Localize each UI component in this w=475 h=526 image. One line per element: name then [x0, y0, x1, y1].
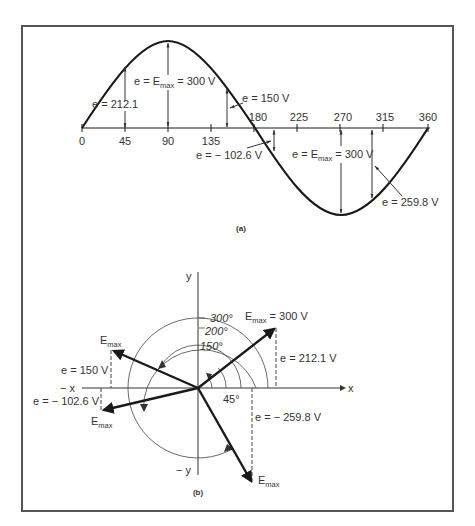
axis-label-neg-x: − x: [60, 382, 75, 394]
panel-b-phasor-diagram: y − y x − x 300° 200° 150° 45°: [33, 270, 354, 497]
label-e-neg-102: e = − 102.6 V: [196, 149, 263, 161]
label-e-150-phasor: e = 150 V: [61, 364, 109, 376]
tick-315: 315: [376, 111, 394, 123]
angle-150: 150°: [200, 340, 223, 352]
tick-0: 0: [79, 135, 85, 147]
caption-b: (b): [193, 488, 204, 497]
tick-90: 90: [162, 135, 174, 147]
figure-frame: [22, 26, 453, 511]
axis-label-neg-y: − y: [176, 464, 191, 476]
label-emax-45: Emax = 300 V: [245, 310, 308, 325]
label-e-max-300-bottom: e = Emax = 300 V: [292, 148, 374, 163]
caption-a: (a): [236, 224, 246, 233]
sine-phasor-figure: 0 45 90 135 180 225 270 315 360: [0, 0, 475, 526]
label-e-neg-259-phasor: e = − 259.8 V: [255, 411, 322, 423]
tick-360: 360: [419, 111, 437, 123]
label-emax-200: Emax: [91, 415, 113, 430]
phasor-150: [114, 351, 198, 388]
phasor-200: [104, 388, 198, 410]
label-e-max-300-top: e = Emax = 300 V: [134, 75, 216, 90]
axis-label-x: x: [348, 382, 354, 394]
tick-225: 225: [290, 111, 308, 123]
angle-200: 200°: [204, 325, 228, 337]
phasor-45: [198, 329, 274, 388]
panel-a-sine-wave: 0 45 90 135 180 225 270 315 360: [79, 41, 439, 233]
tick-45: 45: [119, 135, 131, 147]
tick-270: 270: [334, 111, 352, 123]
angle-300: 300°: [210, 312, 233, 324]
label-emax-150: Emax: [100, 334, 122, 349]
label-e-neg-102-phasor: e = − 102.6 V: [33, 395, 100, 407]
label-e-150: e = 150 V: [242, 92, 290, 104]
label-e-212: e = 212.1: [92, 98, 138, 110]
label-e-212-phasor: e = 212.1 V: [280, 352, 337, 364]
axis-label-y: y: [186, 270, 192, 282]
label-emax-300: Emax: [258, 474, 280, 489]
tick-135: 135: [202, 135, 220, 147]
angle-45: 45°: [223, 393, 240, 405]
label-e-259: e = 259.8 V: [382, 196, 439, 208]
